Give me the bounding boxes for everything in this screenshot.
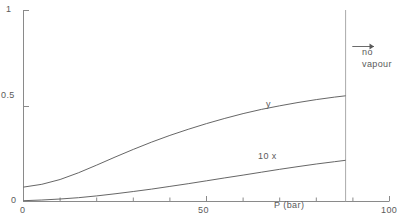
curve-10x xyxy=(24,160,346,200)
x-axis-ticks xyxy=(24,196,390,202)
annotation-no-vapour: no vapour xyxy=(362,46,392,70)
chart-canvas xyxy=(0,0,406,221)
x-tick-label-100: 100 xyxy=(381,205,397,215)
annotation-no-vapour-line1: no xyxy=(362,46,392,58)
chart-figure: 1 0.5 0 0 50 100 P (bar) y 10 x no vapou… xyxy=(0,0,406,221)
curve-label-10x: 10 x xyxy=(258,151,277,161)
x-axis-title: P (bar) xyxy=(274,200,304,212)
y-tick-label-1: 1 xyxy=(6,4,11,14)
curve-label-y: y xyxy=(266,99,271,109)
y-axis-ticks xyxy=(24,11,30,202)
curve-y xyxy=(24,96,346,187)
annotation-no-vapour-line2: vapour xyxy=(362,58,392,70)
x-tick-label-50: 50 xyxy=(198,205,209,215)
x-axis-title-symbol: P xyxy=(274,200,280,210)
y-tick-label-0.5: 0.5 xyxy=(1,90,15,100)
x-axis-title-unit: (bar) xyxy=(283,200,304,210)
x-tick-label-0: 0 xyxy=(20,205,25,215)
y-tick-label-0: 0 xyxy=(11,195,16,205)
